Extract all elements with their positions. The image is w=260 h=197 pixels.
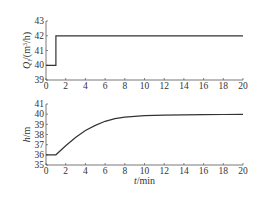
- series-line-Qi: [46, 36, 243, 66]
- y-axis-label: h/m: [21, 127, 32, 143]
- x-tick-label: 4: [83, 166, 88, 176]
- plot-panel-2: 3536373839404102468101214161820h/mt/min: [21, 99, 248, 186]
- x-tick-label: 2: [63, 81, 68, 91]
- x-tick-label: 0: [44, 81, 49, 91]
- chart: 394041424302468101214161820Qi/(m3/h)3536…: [0, 0, 260, 197]
- x-tick-label: 0: [44, 166, 49, 176]
- x-axis-label: t/min: [134, 175, 155, 186]
- x-tick-label: 4: [83, 81, 88, 91]
- y-tick-label: 42: [35, 31, 45, 41]
- y-axis-label: Qi/(m3/h): [21, 32, 34, 69]
- x-tick-label: 18: [219, 81, 229, 91]
- x-tick-label: 14: [179, 81, 189, 91]
- y-tick-label: 40: [35, 60, 45, 70]
- series-line-h: [46, 114, 243, 154]
- y-tick-label: 39: [35, 120, 45, 130]
- x-tick-label: 20: [238, 166, 248, 176]
- x-tick-label: 20: [238, 81, 248, 91]
- x-tick-label: 16: [199, 81, 209, 91]
- x-tick-label: 10: [140, 81, 150, 91]
- y-tick-label: 40: [35, 109, 45, 119]
- y-tick-label: 43: [35, 16, 45, 26]
- y-tick-label: 38: [35, 130, 45, 140]
- x-tick-label: 2: [63, 166, 68, 176]
- x-tick-label: 6: [103, 166, 108, 176]
- x-tick-label: 12: [159, 81, 169, 91]
- plot-panel-1: 394041424302468101214161820Qi/(m3/h): [21, 16, 248, 91]
- y-tick-label: 41: [35, 99, 45, 109]
- y-tick-label: 36: [35, 150, 45, 160]
- x-tick-label: 14: [179, 166, 189, 176]
- x-tick-label: 8: [122, 81, 127, 91]
- x-tick-label: 8: [122, 166, 127, 176]
- y-tick-label: 37: [35, 140, 45, 150]
- x-tick-label: 16: [199, 166, 209, 176]
- y-tick-label: 41: [35, 46, 45, 56]
- x-tick-label: 18: [219, 166, 229, 176]
- x-tick-label: 6: [103, 81, 108, 91]
- x-tick-label: 12: [159, 166, 169, 176]
